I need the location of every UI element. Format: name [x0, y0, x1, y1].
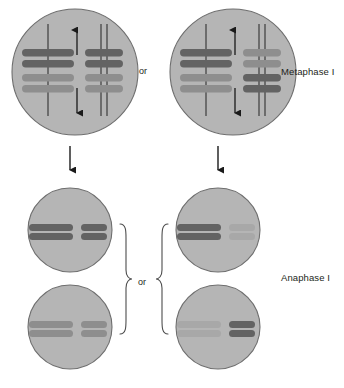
- chromosome-bar: [180, 49, 232, 57]
- anaphase-cell-top-right: [176, 188, 260, 272]
- cell-membrane: [170, 9, 296, 135]
- transition-arrows: [70, 146, 218, 170]
- chromosome-bar: [81, 321, 107, 328]
- chromosome-bar: [81, 233, 107, 240]
- chromosome-bar: [22, 49, 74, 57]
- chromosome-bar: [85, 74, 123, 82]
- chromosome-bar: [29, 330, 73, 337]
- anaphase-cell-bottom-right: [176, 285, 260, 369]
- chromosome-bar: [229, 330, 255, 337]
- bracket-left-group: [120, 224, 132, 334]
- chromosome-bar: [81, 224, 107, 231]
- or-separator-metaphase: or: [139, 66, 147, 76]
- stage-label-metaphase: Metaphase I: [281, 66, 334, 77]
- meiosis-diagram: Metaphase I Anaphase I or or: [0, 0, 344, 388]
- chromosome-bar: [229, 321, 255, 328]
- chromosome-bar: [177, 233, 221, 240]
- chromosome-bar: [85, 60, 123, 68]
- chromosome-bar: [177, 321, 221, 328]
- metaphase-row: [12, 9, 296, 135]
- chromosome-bar: [180, 74, 232, 82]
- chromosome-bar: [29, 321, 73, 328]
- chromosome-bar: [177, 330, 221, 337]
- chromosome-bar: [177, 224, 221, 231]
- chromosome-bar: [22, 74, 74, 82]
- or-separator-anaphase: or: [138, 277, 146, 287]
- chromosome-bar: [22, 85, 74, 93]
- chromosome-bar: [81, 330, 107, 337]
- anaphase-cell-bottom-left: [28, 285, 112, 369]
- bracket-right-group: [156, 224, 168, 334]
- chromosome-bar: [180, 60, 232, 68]
- anaphase-cell-top-left: [28, 188, 112, 272]
- chromosome-bar: [229, 233, 255, 240]
- chromosome-bar: [29, 233, 73, 240]
- chromosome-bar: [85, 49, 123, 57]
- chromosome-bar: [229, 224, 255, 231]
- chromosome-bar: [29, 224, 73, 231]
- chromosome-bar: [243, 74, 281, 82]
- chromosome-bar: [180, 85, 232, 93]
- metaphase-cell-left: [12, 9, 138, 135]
- cell-membrane: [12, 9, 138, 135]
- chromosome-bar: [22, 60, 74, 68]
- stage-label-anaphase: Anaphase I: [281, 272, 330, 283]
- chromosome-bar: [243, 85, 281, 93]
- chromosome-bar: [85, 85, 123, 93]
- chromosome-bar: [243, 49, 281, 57]
- diagram-canvas: [0, 0, 344, 388]
- metaphase-cell-right: [170, 9, 296, 135]
- chromosome-bar: [243, 60, 281, 68]
